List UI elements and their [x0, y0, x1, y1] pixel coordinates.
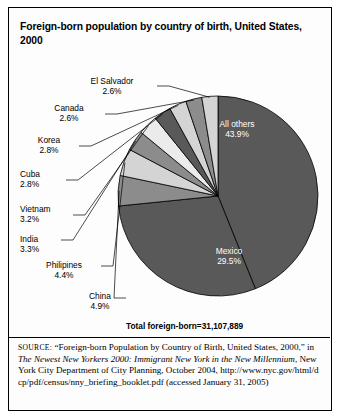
- slice-label-canada-name: Canada: [54, 103, 83, 113]
- source-part3: (accessed January 31, 2005): [164, 377, 269, 387]
- source-note: SOURCE: “Foreign-born Population by Coun…: [18, 342, 321, 388]
- source-part1: “Foreign-born Population by Country of B…: [52, 342, 314, 352]
- slice-label-el-salvador-name: El Salvador: [91, 76, 134, 86]
- slice-label-china: China 4.9%: [76, 291, 124, 311]
- slice-label-vietnam: Vietnam 3.2%: [20, 204, 51, 224]
- pie-chart: El Salvador 2.6% Canada 2.6% Korea 2.8% …: [9, 8, 330, 338]
- slice-label-all-others-name: All others: [220, 119, 255, 129]
- slice-label-korea-value: 2.8%: [39, 145, 58, 155]
- leader-line-el-salvador: [157, 86, 210, 97]
- slice-label-all-others: All others 43.9%: [197, 119, 277, 140]
- slice-label-all-others-value: 43.9%: [225, 129, 249, 139]
- slice-label-mexico-value: 29.5%: [217, 256, 241, 266]
- figure-panel: Foreign-born population by country of bi…: [8, 7, 332, 411]
- total-label: Total foreign-born=31,107,889: [126, 321, 243, 331]
- slice-label-cuba: Cuba 2.8%: [20, 169, 40, 189]
- pie-chart-svg: [9, 8, 330, 338]
- slice-label-canada-value: 2.6%: [59, 113, 78, 123]
- slice-label-vietnam-value: 3.2%: [20, 214, 39, 224]
- slice-label-china-value: 4.9%: [90, 301, 109, 311]
- slice-label-korea: Korea 2.8%: [21, 135, 77, 155]
- slice-label-india-name: India: [20, 234, 38, 244]
- source-publication-title: The Newest New Yorkers 2000: Immigrant N…: [18, 354, 295, 364]
- source-prefix: SOURCE:: [18, 343, 52, 352]
- slice-label-india-value: 3.3%: [20, 244, 39, 254]
- slice-label-india: India 3.3%: [20, 234, 39, 254]
- slice-label-china-name: China: [89, 291, 111, 301]
- slice-label-el-salvador: El Salvador 2.6%: [69, 76, 155, 96]
- slice-label-philipines-value: 4.4%: [54, 270, 73, 280]
- slice-label-philipines: Philipines 4.4%: [30, 260, 98, 280]
- slice-label-korea-name: Korea: [38, 135, 60, 145]
- source-divider: [9, 337, 330, 338]
- slice-label-philipines-name: Philipines: [46, 260, 82, 270]
- slice-label-cuba-value: 2.8%: [20, 179, 39, 189]
- slice-label-mexico: Mexico 29.5%: [194, 246, 264, 267]
- slice-label-el-salvador-value: 2.6%: [102, 86, 121, 96]
- slice-label-mexico-name: Mexico: [216, 246, 243, 256]
- slice-label-cuba-name: Cuba: [20, 169, 40, 179]
- slice-label-vietnam-name: Vietnam: [20, 204, 51, 214]
- slice-label-canada: Canada 2.6%: [36, 103, 102, 123]
